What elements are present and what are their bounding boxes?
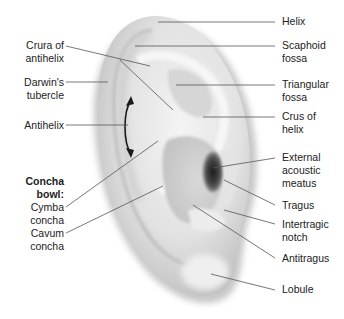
label-heading: bowl: [25, 188, 64, 201]
label-darwins-tubercle: Darwin's tubercle [24, 76, 64, 102]
label-external-acoustic-meatus: External acoustic meatus [282, 151, 321, 190]
label-text: Crura of [25, 39, 64, 52]
label-text: Helix [282, 15, 305, 28]
label-text: acoustic [282, 164, 321, 177]
label-crura-of-antihelix: Crura of antihelix [25, 39, 64, 65]
label-triangular-fossa: Triangular fossa [282, 78, 329, 104]
label-heading: Concha [25, 175, 64, 188]
meatus-opening [203, 152, 223, 192]
label-scaphoid-fossa: Scaphoid fossa [282, 39, 326, 65]
label-cymba-concha: Cymba [25, 201, 64, 214]
label-cavum-concha: Cavum [25, 227, 64, 240]
label-text: helix [282, 123, 316, 136]
label-text: meatus [282, 177, 321, 190]
lobule-shape [181, 254, 229, 290]
label-text: Intertragic [282, 218, 329, 231]
label-concha-bowl: Concha bowl: Cymba concha Cavum concha [25, 175, 64, 253]
label-text: fossa [282, 91, 329, 104]
label-antitragus: Antitragus [282, 252, 329, 265]
label-text: tubercle [24, 89, 64, 102]
label-antihelix: Antihelix [24, 119, 64, 132]
label-tragus: Tragus [282, 199, 314, 212]
label-text: External [282, 151, 321, 164]
label-text: fossa [282, 52, 326, 65]
label-text: Antitragus [282, 252, 329, 265]
label-lobule: Lobule [282, 283, 314, 296]
label-text: Crus of [282, 110, 316, 123]
label-cymba-concha: concha [25, 214, 64, 227]
label-text: Scaphoid [282, 39, 326, 52]
label-crus-of-helix: Crus of helix [282, 110, 316, 136]
label-text: Tragus [282, 199, 314, 212]
label-text: Lobule [282, 283, 314, 296]
label-text: notch [282, 231, 329, 244]
label-cavum-concha: concha [25, 240, 64, 253]
label-intertragic-notch: Intertragic notch [282, 218, 329, 244]
ear-anatomy-figure: Crura of antihelix Darwin's tubercle Ant… [0, 0, 344, 319]
label-text: Darwin's [24, 76, 64, 89]
label-helix: Helix [282, 15, 305, 28]
label-text: Triangular [282, 78, 329, 91]
label-text: antihelix [25, 52, 64, 65]
label-text: Antihelix [24, 119, 64, 132]
